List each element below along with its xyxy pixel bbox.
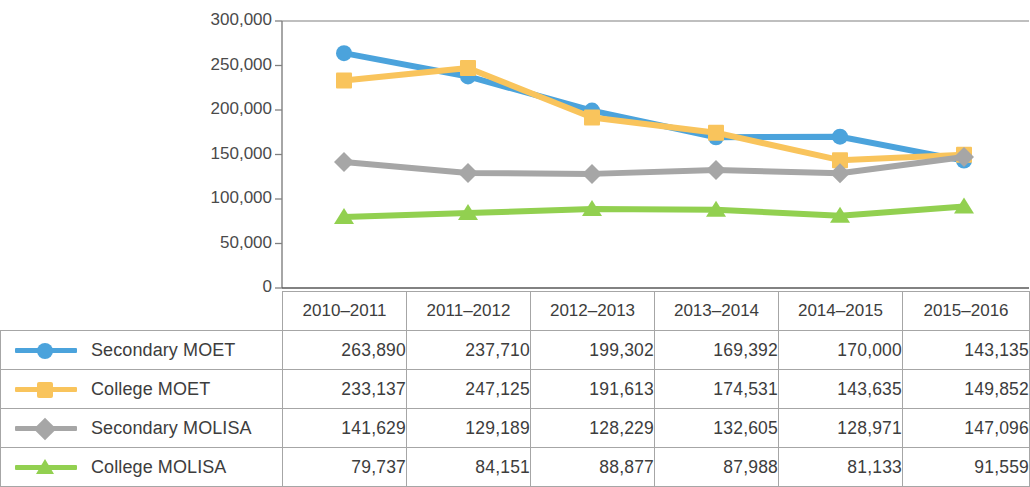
table-cell-value: 191,613 — [531, 370, 655, 409]
data-point-diamond — [334, 152, 354, 172]
table-cell-value: 263,890 — [283, 331, 407, 370]
column-header-year: 2012–2013 — [531, 292, 655, 331]
table-cell-value: 81,133 — [779, 448, 903, 487]
series-college-moet — [336, 60, 972, 168]
table-cell-value: 169,392 — [655, 331, 779, 370]
table-cell-value: 88,877 — [531, 448, 655, 487]
series-line — [344, 207, 964, 218]
table-cell-value: 84,151 — [407, 448, 531, 487]
data-point-square — [584, 109, 600, 125]
legend-label: Secondary MOET — [91, 340, 235, 361]
table-row: College MOET233,137247,125191,613174,531… — [1, 370, 1030, 409]
table-cell-value: 233,137 — [283, 370, 407, 409]
data-point-square — [460, 60, 476, 76]
column-header-year: 2015–2016 — [903, 292, 1030, 331]
table-cell-value: 143,635 — [779, 370, 903, 409]
table-cell-value: 174,531 — [655, 370, 779, 409]
line-chart: 300,000250,000200,000150,000100,00050,00… — [0, 0, 1029, 300]
table-cell-value: 170,000 — [779, 331, 903, 370]
series-secondary-molisa — [334, 147, 974, 184]
table-cell-value: 79,737 — [283, 448, 407, 487]
table-row: Secondary MOLISA141,629129,189128,229132… — [1, 409, 1030, 448]
legend-marker-square-icon — [15, 378, 77, 400]
table-cell-value: 128,229 — [531, 409, 655, 448]
table-cell-value: 87,988 — [655, 448, 779, 487]
column-header-year: 2013–2014 — [655, 292, 779, 331]
table-cell-value: 237,710 — [407, 331, 531, 370]
table-corner-cell — [1, 292, 283, 331]
data-point-diamond — [706, 160, 726, 180]
series-secondary-moet — [336, 45, 972, 168]
data-point-diamond — [582, 164, 602, 184]
data-point-circle — [832, 129, 848, 145]
legend-marker-diamond-icon — [15, 417, 77, 439]
legend-label: College MOLISA — [91, 457, 226, 478]
chart-plot-svg — [0, 0, 1029, 300]
data-point-square — [708, 125, 724, 141]
legend-marker-circle-icon — [15, 339, 77, 361]
series-line — [344, 68, 964, 160]
data-point-square — [336, 73, 352, 89]
column-header-year: 2010–2011 — [283, 292, 407, 331]
table-cell-value: 141,629 — [283, 409, 407, 448]
legend-marker-triangle-icon — [15, 456, 77, 478]
table-row: Secondary MOET263,890237,710199,302169,3… — [1, 331, 1030, 370]
series-college-molisa — [334, 198, 974, 225]
legend-cell: Secondary MOET — [1, 331, 283, 370]
data-point-diamond — [458, 163, 478, 183]
table-cell-value: 147,096 — [903, 409, 1030, 448]
table-cell-value: 199,302 — [531, 331, 655, 370]
table-cell-value: 91,559 — [903, 448, 1030, 487]
table-row: College MOLISA79,73784,15188,87787,98881… — [1, 448, 1030, 487]
table-cell-value: 149,852 — [903, 370, 1030, 409]
table-header-row: 2010–20112011–20122012–20132013–20142014… — [1, 292, 1030, 331]
data-point-circle — [336, 45, 352, 61]
table-cell-value: 132,605 — [655, 409, 779, 448]
data-table: 2010–20112011–20122012–20132013–20142014… — [0, 291, 1030, 487]
legend-cell: Secondary MOLISA — [1, 409, 283, 448]
column-header-year: 2014–2015 — [779, 292, 903, 331]
table-cell-value: 129,189 — [407, 409, 531, 448]
table-cell-value: 247,125 — [407, 370, 531, 409]
legend-label: College MOET — [91, 379, 210, 400]
legend-cell: College MOLISA — [1, 448, 283, 487]
table-cell-value: 143,135 — [903, 331, 1030, 370]
column-header-year: 2011–2012 — [407, 292, 531, 331]
table-body: Secondary MOET263,890237,710199,302169,3… — [1, 331, 1030, 487]
legend-label: Secondary MOLISA — [91, 418, 252, 439]
table-cell-value: 128,971 — [779, 409, 903, 448]
legend-cell: College MOET — [1, 370, 283, 409]
